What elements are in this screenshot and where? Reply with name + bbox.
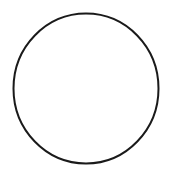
background xyxy=(0,0,175,179)
diagram-svg xyxy=(0,0,175,179)
diagram-canvas xyxy=(0,0,175,179)
